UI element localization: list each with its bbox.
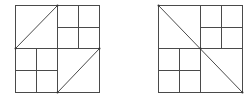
vertex-dot xyxy=(99,48,101,50)
bottom-right-diagonal xyxy=(58,49,100,93)
diagram-canvas xyxy=(0,0,251,97)
vertex-dot xyxy=(57,92,59,94)
vertex-dot xyxy=(242,92,244,94)
figure-left xyxy=(15,5,101,94)
vertex-dot xyxy=(15,48,17,50)
vertex-dot xyxy=(57,5,59,7)
top-left-diagonal xyxy=(16,6,58,49)
figure-right xyxy=(158,5,244,94)
vertex-dot xyxy=(200,48,202,50)
vertex-dot xyxy=(158,5,160,7)
